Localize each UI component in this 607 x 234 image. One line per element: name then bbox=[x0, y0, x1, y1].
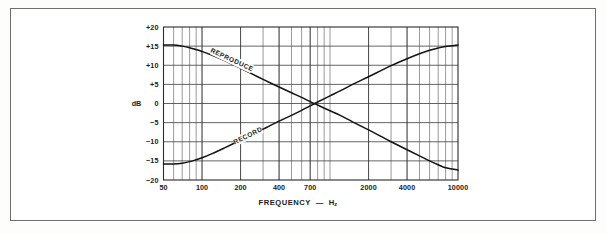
curve-labels: REPRODUCERECORD bbox=[209, 46, 264, 146]
grid-horizontal-lines bbox=[164, 46, 459, 161]
x-axis-unit-text: Hz bbox=[329, 198, 337, 207]
x-tick-label: 200 bbox=[234, 183, 246, 192]
y-tick-label: +20 bbox=[146, 23, 159, 32]
curve-label-reproduce: REPRODUCE bbox=[209, 46, 255, 74]
x-axis-tick-labels: 501002004007002000400010000 bbox=[159, 183, 468, 192]
y-tick-label: −10 bbox=[146, 137, 159, 146]
y-tick-label: 0 bbox=[154, 99, 158, 108]
frequency-response-chart: −20−15−10−50+5+10+15+20 5010020040070020… bbox=[0, 0, 607, 234]
curve-label-record: RECORD bbox=[232, 125, 264, 147]
curve-label-text: RECORD bbox=[232, 125, 263, 145]
x-axis-unit-subscript: z bbox=[334, 201, 337, 207]
y-tick-label: +15 bbox=[146, 42, 159, 51]
curve-record bbox=[164, 45, 459, 164]
x-axis-title-text: FREQUENCY bbox=[259, 198, 311, 207]
y-tick-label: +10 bbox=[146, 61, 159, 70]
y-axis-tick-labels: −20−15−10−50+5+10+15+20 bbox=[146, 23, 159, 185]
x-tick-label: 10000 bbox=[448, 183, 469, 192]
y-tick-label: −15 bbox=[146, 156, 159, 165]
figure-root: −20−15−10−50+5+10+15+20 5010020040070020… bbox=[0, 0, 607, 234]
y-axis-label: dB bbox=[132, 99, 142, 108]
data-curves bbox=[164, 45, 459, 170]
y-tick-label: −20 bbox=[146, 176, 159, 185]
x-axis-title-dash: — bbox=[316, 198, 324, 207]
y-tick-label: +5 bbox=[150, 80, 158, 89]
x-tick-label: 100 bbox=[196, 183, 208, 192]
chart-svg: −20−15−10−50+5+10+15+20 5010020040070020… bbox=[0, 0, 607, 234]
curve-label-text: REPRODUCE bbox=[209, 46, 254, 72]
y-tick-label: −5 bbox=[150, 118, 158, 127]
x-tick-label: 700 bbox=[304, 183, 316, 192]
x-tick-label: 50 bbox=[159, 183, 167, 192]
x-tick-label: 400 bbox=[273, 183, 285, 192]
x-tick-label: 4000 bbox=[399, 183, 415, 192]
x-axis-title: FREQUENCY — Hz bbox=[259, 198, 338, 207]
curve-reproduce bbox=[164, 45, 459, 170]
x-tick-label: 2000 bbox=[360, 183, 376, 192]
